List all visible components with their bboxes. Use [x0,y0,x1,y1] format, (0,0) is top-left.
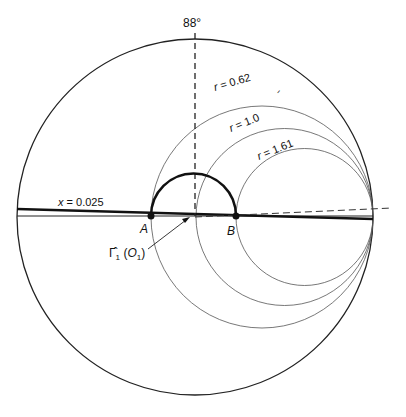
semicircle-arc [151,174,236,217]
r-label-1-61: r = 1.61 [255,137,294,162]
pointer-arrow [148,220,186,249]
point-b [233,213,240,220]
r-label-1-0: r = 1.0 [227,111,261,134]
small-mark: ᐟ [277,89,280,98]
reactance-label: x = 0.025 [57,196,104,208]
point-a [148,213,155,220]
smith-chart: 88° x = 0.025 r = 0.62 r = 1.0 r = 1.61 … [0,0,406,417]
pointer-label: Γ̂1 (O1) [109,246,145,262]
r-label-0-62: r = 0.62 [212,71,251,93]
point-b-label: B [227,224,235,238]
angle-label: 88° [183,16,201,30]
point-a-label: A [139,222,148,236]
